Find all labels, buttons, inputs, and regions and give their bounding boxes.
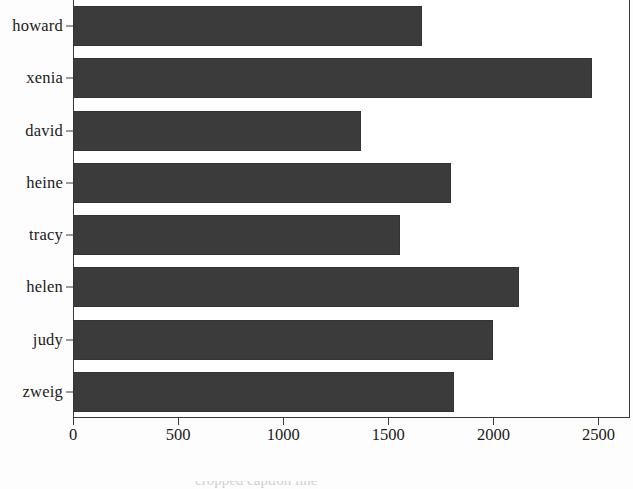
y-tick-helen [66,287,73,288]
y-tick-david [66,130,73,131]
y-tick-howard [66,26,73,27]
x-axis-label-1000: 1000 [267,427,300,444]
x-tick-2500 [598,418,599,425]
bar-fill [73,320,493,360]
x-axis-label-0: 0 [69,427,77,444]
caption-text: cropped caption line [195,481,317,489]
bar-david [73,111,361,151]
x-axis-label-2000: 2000 [477,427,510,444]
bar-fill [73,58,592,98]
y-axis-label-david: david [25,122,63,139]
bar-howard [73,6,422,46]
y-tick-zweig [66,391,73,392]
bar-heine [73,163,451,203]
x-tick-1000 [283,418,284,425]
bar-fill [73,111,361,151]
bar-zweig [73,372,454,412]
y-axis-label-xenia: xenia [26,70,63,87]
y-tick-judy [66,339,73,340]
bar-xenia [73,58,592,98]
y-axis-label-helen: helen [26,279,63,296]
x-axis: 05001000150020002500 [73,418,630,458]
y-axis-label-howard: howard [12,18,63,35]
bar-chart: howardxeniadavidheinetracyhelenjudyzweig… [0,0,633,489]
bar-judy [73,320,493,360]
y-axis-label-judy: judy [33,331,63,348]
bar-fill [73,6,422,46]
bars-layer [73,0,630,418]
bar-helen [73,267,519,307]
y-axis-label-zweig: zweig [23,384,63,401]
x-tick-1500 [388,418,389,425]
x-axis-label-1500: 1500 [372,427,405,444]
x-tick-500 [178,418,179,425]
x-axis-label-2500: 2500 [582,427,615,444]
y-axis-label-tracy: tracy [29,227,63,244]
x-tick-0 [73,418,74,425]
y-axis: howardxeniadavidheinetracyhelenjudyzweig [0,0,73,418]
caption-clip: cropped caption line [0,481,633,489]
y-axis-label-heine: heine [26,175,63,192]
bar-tracy [73,215,400,255]
x-axis-label-500: 500 [166,427,191,444]
y-tick-xenia [66,78,73,79]
bar-fill [73,215,400,255]
bar-fill [73,372,454,412]
y-tick-tracy [66,235,73,236]
bar-fill [73,163,451,203]
y-tick-heine [66,182,73,183]
x-tick-2000 [493,418,494,425]
bar-fill [73,267,519,307]
